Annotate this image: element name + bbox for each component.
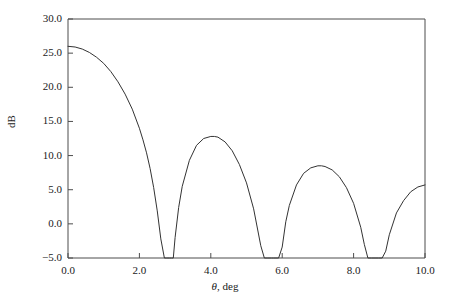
y-tick-label: 15.0	[20, 115, 62, 126]
x-tick-label: 10.0	[400, 265, 450, 276]
y-tick-label: 0.0	[20, 218, 62, 229]
x-tick-label: 8.0	[329, 265, 379, 276]
y-tick-label: 30.0	[20, 13, 62, 24]
x-tick-label: 0.0	[43, 265, 93, 276]
y-axis-title: dB	[6, 115, 17, 128]
y-tick-label: 20.0	[20, 81, 62, 92]
x-tick-label: 4.0	[186, 265, 236, 276]
y-tick-label: −5.0	[20, 252, 62, 263]
x-axis-title: θ, deg	[0, 281, 450, 292]
x-axis-title-units: , deg	[217, 280, 238, 292]
y-tick-label: 10.0	[20, 150, 62, 161]
x-tick-label: 2.0	[114, 265, 164, 276]
data-series-line	[68, 46, 425, 258]
x-axis-ticks	[68, 253, 425, 258]
plot-canvas	[0, 0, 450, 304]
y-tick-label: 25.0	[20, 47, 62, 58]
y-tick-label: 5.0	[20, 184, 62, 195]
axis-frame	[68, 19, 425, 258]
chart-figure: −5.00.05.010.015.020.025.030.0 0.02.04.0…	[0, 0, 450, 304]
y-axis-ticks	[68, 19, 73, 258]
x-tick-label: 6.0	[257, 265, 307, 276]
